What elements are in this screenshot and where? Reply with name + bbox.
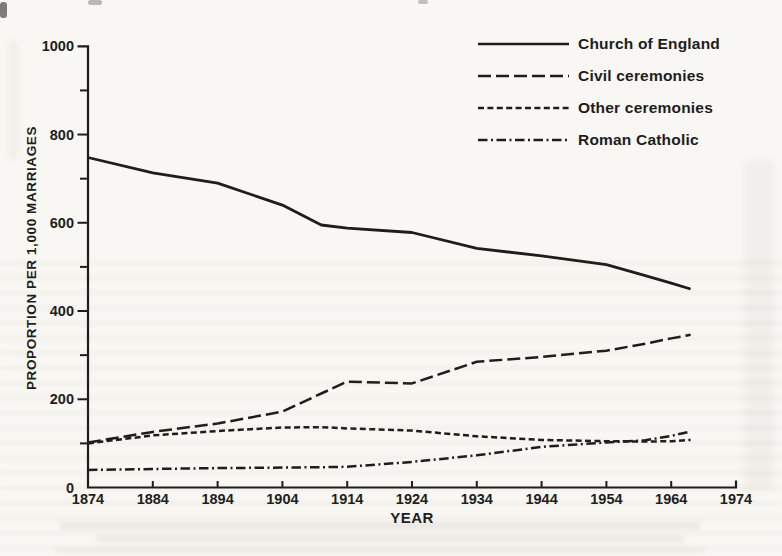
dash-dot-line-sample-icon: [477, 136, 570, 144]
x-axis: 1874188418941904191419241934194419541964…: [72, 481, 752, 507]
x-tick-label: 1964: [655, 491, 687, 507]
y-axis-title: PROPORTION PER 1,000 MARRIAGES: [24, 126, 39, 390]
y-tick-label: 800: [50, 127, 74, 143]
y-tick-label: 200: [50, 391, 74, 407]
series-lines: [88, 158, 691, 470]
legend-item-church-of-england: Church of England: [477, 28, 720, 60]
legend-item-roman-catholic: Roman Catholic: [477, 124, 720, 156]
series-line-roman-catholic: [88, 432, 691, 470]
series-line-church-of-england: [88, 158, 691, 290]
scanned-book-page: 0200400600800100018741884189419041914192…: [0, 0, 782, 556]
long-dash-line-sample-icon: [477, 72, 570, 80]
x-tick-label: 1924: [396, 491, 428, 507]
short-dash-line-sample-icon: [477, 104, 570, 112]
legend-label: Civil ceremonies: [578, 67, 704, 85]
legend-item-civil-ceremonies: Civil ceremonies: [477, 60, 720, 92]
solid-line-sample-icon: [477, 40, 570, 48]
legend-label: Other ceremonies: [578, 99, 713, 117]
x-tick-label: 1894: [201, 491, 233, 507]
x-tick-label: 1904: [266, 491, 298, 507]
legend-label: Roman Catholic: [578, 131, 699, 149]
y-tick-label: 400: [50, 303, 74, 319]
legend-label: Church of England: [578, 35, 720, 53]
y-axis: 02004006008001000: [42, 38, 88, 495]
legend-item-other-ceremonies: Other ceremonies: [477, 92, 720, 124]
x-tick-label: 1874: [72, 491, 104, 507]
x-tick-label: 1974: [720, 491, 752, 507]
x-axis-title: YEAR: [390, 509, 434, 526]
y-tick-label: 600: [50, 215, 74, 231]
x-tick-label: 1914: [331, 491, 363, 507]
x-tick-label: 1884: [137, 491, 169, 507]
x-tick-label: 1944: [525, 491, 557, 507]
x-tick-label: 1954: [590, 491, 622, 507]
x-tick-label: 1934: [461, 491, 493, 507]
y-tick-label: 1000: [42, 38, 74, 54]
legend: Church of England Civil ceremonies Other…: [477, 28, 720, 156]
series-line-civil-ceremonies: [88, 335, 691, 443]
